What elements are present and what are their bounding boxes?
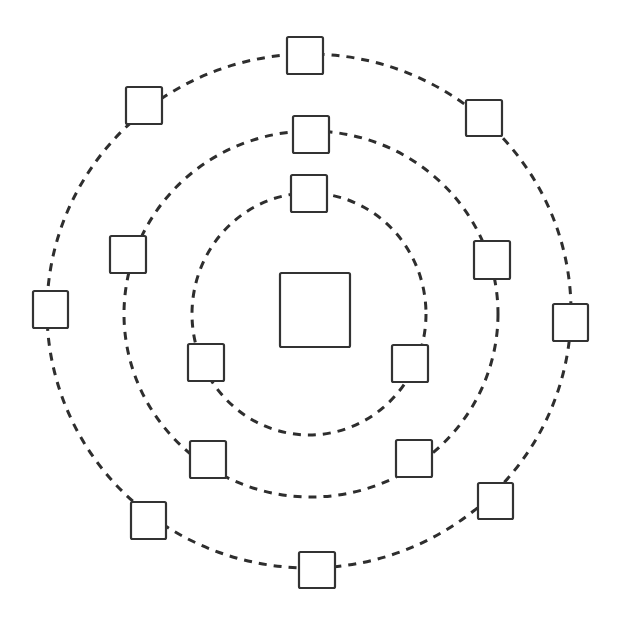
ring-inner-node-2 [188,344,224,381]
ring-outer-node-3 [466,100,502,136]
concentric-ring-diagram [0,0,617,620]
ring-inner-node-1 [291,175,327,212]
ring-outer-node-4 [33,291,68,328]
ring-inner-node-3 [392,345,428,382]
ring-middle-node-1 [293,116,329,153]
ring-outer-node-7 [478,483,513,519]
ring-outer-node-8 [299,552,335,588]
ring-middle-node-2 [110,236,146,273]
ring-outer-node-6 [131,502,166,539]
ring-outer-node-2 [126,87,162,124]
ring-middle-node-5 [396,440,432,477]
ring-middle-node-3 [474,241,510,279]
ring-outer-node-5 [553,304,588,341]
ring-outer-node-1 [287,37,323,74]
center-node [280,273,350,347]
nodes-layer [33,37,588,588]
diagram-canvas [0,0,617,620]
ring-middle-node-4 [190,441,226,478]
